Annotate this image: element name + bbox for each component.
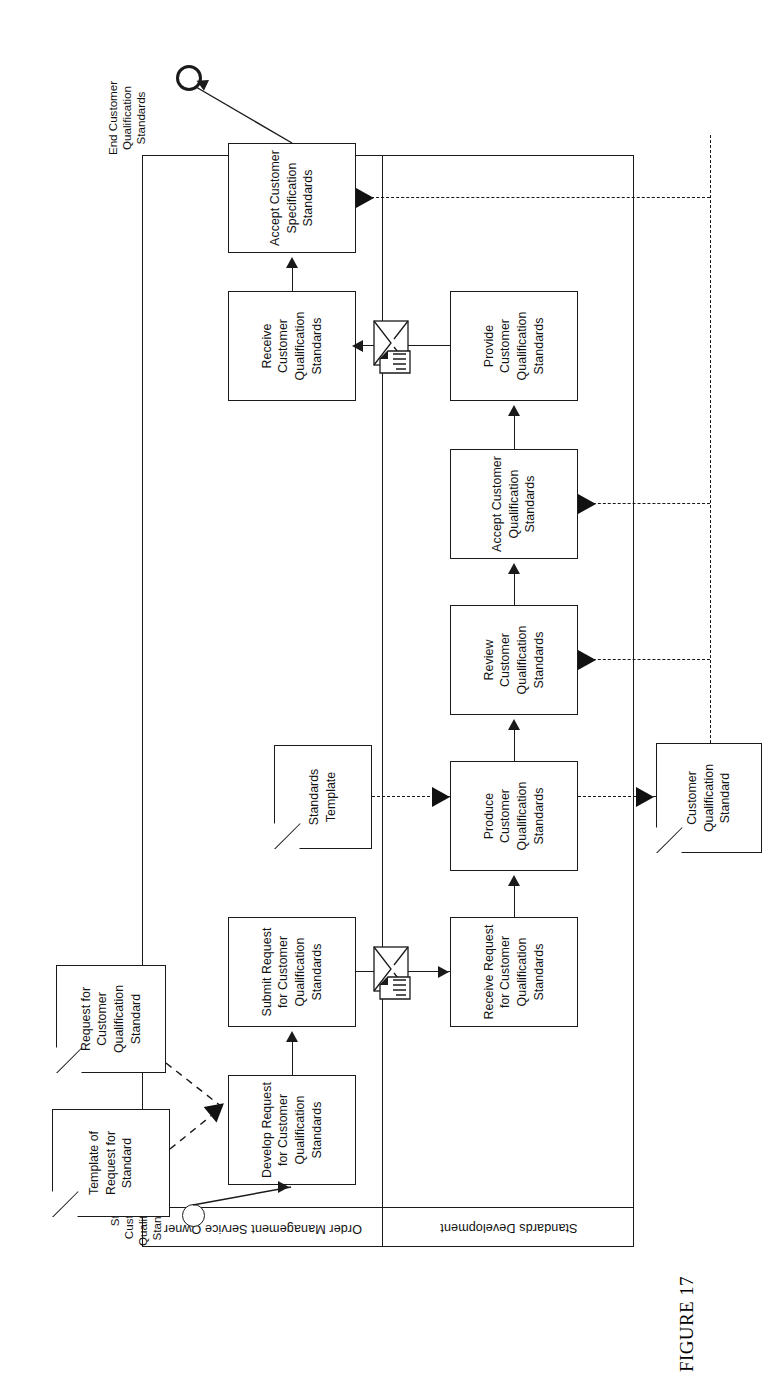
bpmn-diagram-canvas: Order Management Service Owner Standards…: [50, 55, 740, 1345]
figure-caption-wrap: FIGURE 17: [676, 1372, 677, 1373]
start-event[interactable]: [182, 1204, 205, 1227]
task-accept-customer-qualification-standards[interactable]: Accept Customer Qualification Standards: [450, 449, 578, 559]
lane-header-standards-development: Standards Development: [383, 1207, 634, 1247]
arrowhead: [432, 787, 450, 807]
task-receive-request[interactable]: Receive Request for Customer Qualificati…: [450, 917, 578, 1027]
arrowhead: [508, 719, 520, 730]
arrowhead: [636, 787, 654, 807]
assoc-standard-to-review-v: [578, 659, 710, 660]
arrowhead: [508, 875, 520, 886]
task-review-customer-qualification-standards[interactable]: Review Customer Qualification Standards: [450, 605, 578, 715]
data-object-label: Request for Customer Qualification Stand…: [76, 966, 146, 1072]
assoc-standard-to-accept-v: [578, 503, 710, 504]
arrowhead: [578, 494, 596, 514]
task-submit-request[interactable]: Submit Request for Customer Qualificatio…: [228, 917, 356, 1027]
data-object-template-of-request[interactable]: Template of Request for Standard: [52, 1109, 170, 1217]
lane-header-order-management: Order Management Service Owner: [142, 1207, 383, 1247]
data-object-customer-qualification-standard[interactable]: Customer Qualification Standard: [656, 743, 762, 853]
assoc-standard-to-accept-spec-v: [356, 197, 710, 198]
envelope-document-icon: [370, 945, 414, 1001]
task-accept-customer-specification-standards[interactable]: Accept Customer Specification Standards: [228, 143, 356, 253]
assoc-request-doc-to-develop: [166, 993, 240, 1073]
assoc-standard-to-review-h: [710, 135, 711, 743]
flow-accept-to-provide: [514, 415, 515, 449]
envelope-document-icon: [370, 319, 414, 375]
data-object-standards-template[interactable]: Standards Template: [274, 745, 372, 849]
arrowhead: [286, 257, 298, 268]
flow-develop-to-submit: [292, 1041, 293, 1075]
arrowhead: [356, 188, 374, 208]
data-object-label: Template of Request for Standard: [84, 1110, 138, 1216]
flow-review-to-accept: [514, 573, 515, 605]
arrowhead: [578, 650, 596, 670]
figure-caption: FIGURE 17: [676, 1276, 698, 1372]
arrowhead: [352, 340, 363, 352]
end-event-label: End Customer Qualification Standards: [106, 75, 148, 161]
arrowhead: [508, 563, 520, 574]
arrowhead: [278, 1181, 289, 1193]
data-object-label: Standards Template: [304, 746, 341, 848]
arrowhead: [508, 405, 520, 416]
arrowhead: [286, 1031, 298, 1042]
task-produce-customer-qualification-standards[interactable]: Produce Customer Qualification Standards: [450, 761, 578, 871]
task-provide-customer-qualification-standards[interactable]: Provide Customer Qualification Standards: [450, 291, 578, 401]
flow-receive-to-accept-spec: [292, 267, 293, 291]
data-object-label: Customer Qualification Standard: [682, 744, 736, 852]
arrowhead: [438, 966, 449, 978]
task-receive-customer-qualification-standards[interactable]: Receive Customer Qualification Standards: [228, 291, 356, 401]
flow-produce-to-review: [514, 729, 515, 761]
data-object-request-for-customer-qualification-standard[interactable]: Request for Customer Qualification Stand…: [56, 965, 166, 1073]
flow-receive-to-produce: [514, 885, 515, 917]
lane-label-standards-development: Standards Development: [440, 1219, 577, 1235]
